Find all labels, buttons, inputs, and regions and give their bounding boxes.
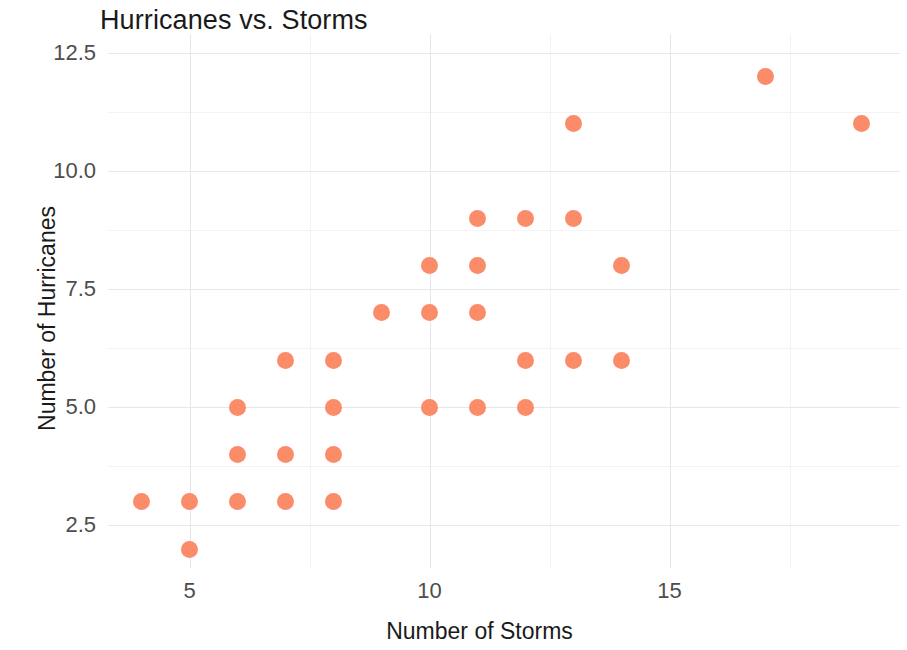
- plot-panel: [108, 34, 900, 568]
- data-point: [277, 352, 294, 369]
- gridline-horizontal-major: [108, 171, 900, 172]
- gridline-vertical-major: [430, 34, 431, 568]
- data-point: [517, 352, 534, 369]
- data-point: [421, 399, 438, 416]
- gridline-vertical-minor: [790, 34, 791, 568]
- data-point: [325, 399, 342, 416]
- data-point: [757, 68, 774, 85]
- y-axis-title: Number of Hurricanes: [34, 39, 61, 599]
- data-point: [277, 446, 294, 463]
- data-point: [373, 304, 390, 321]
- data-point: [181, 541, 198, 558]
- data-point: [517, 210, 534, 227]
- data-point: [469, 210, 486, 227]
- x-axis-title-text: Number of Storms: [386, 618, 573, 644]
- data-point: [181, 493, 198, 510]
- x-axis-tick-label: 10: [417, 578, 441, 604]
- gridline-vertical-minor: [310, 34, 311, 568]
- data-point: [229, 446, 246, 463]
- data-point: [565, 115, 582, 132]
- data-point: [421, 304, 438, 321]
- x-axis-tick-label: 15: [657, 578, 681, 604]
- gridline-horizontal-major: [108, 525, 900, 526]
- gridline-horizontal-minor: [108, 112, 900, 113]
- data-point: [613, 352, 630, 369]
- data-point: [517, 399, 534, 416]
- data-point: [325, 446, 342, 463]
- x-axis-tick-label: 5: [183, 578, 195, 604]
- x-axis-tick-labels: 51015: [108, 578, 900, 608]
- gridline-vertical-major: [190, 34, 191, 568]
- gridline-horizontal-major: [108, 289, 900, 290]
- gridline-horizontal-minor: [108, 230, 900, 231]
- data-point: [565, 210, 582, 227]
- gridline-vertical-minor: [550, 34, 551, 568]
- data-point: [565, 352, 582, 369]
- gridline-horizontal-major: [108, 407, 900, 408]
- scatter-chart: Hurricanes vs. Storms 2.55.07.510.012.5 …: [0, 0, 907, 650]
- data-point: [421, 257, 438, 274]
- data-point: [469, 257, 486, 274]
- data-point: [469, 399, 486, 416]
- y-axis-tick-label: 2.5: [65, 512, 96, 538]
- data-point: [229, 493, 246, 510]
- chart-title: Hurricanes vs. Storms: [100, 5, 368, 36]
- data-point: [853, 115, 870, 132]
- data-point: [469, 304, 486, 321]
- y-axis-tick-label: 5.0: [65, 394, 96, 420]
- y-axis-tick-label: 7.5: [65, 276, 96, 302]
- gridline-horizontal-major: [108, 53, 900, 54]
- data-point: [277, 493, 294, 510]
- data-point: [229, 399, 246, 416]
- data-point: [325, 493, 342, 510]
- data-point: [133, 493, 150, 510]
- data-point: [325, 352, 342, 369]
- data-point: [613, 257, 630, 274]
- gridline-horizontal-minor: [108, 466, 900, 467]
- gridline-vertical-major: [670, 34, 671, 568]
- x-axis-title: Number of Storms: [0, 618, 907, 645]
- gridline-horizontal-minor: [108, 348, 900, 349]
